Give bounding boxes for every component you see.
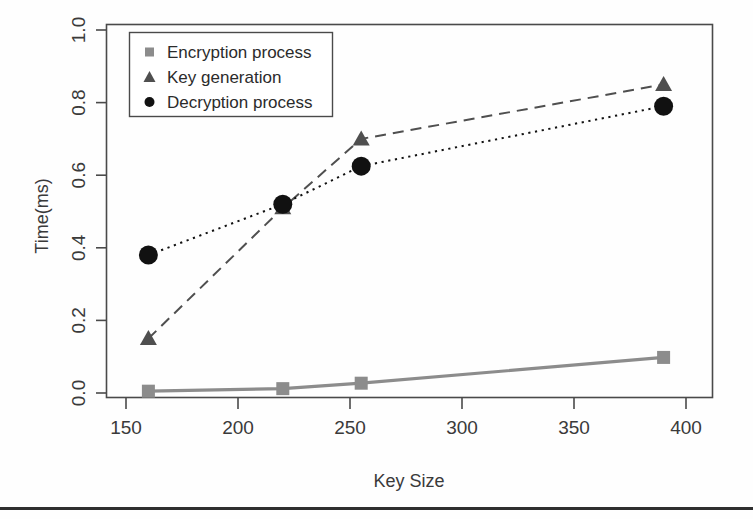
circle-marker — [273, 195, 292, 214]
x-tick-label: 150 — [110, 417, 142, 438]
chart-figure: 0.00.20.40.60.81.0 150200250300350400 Ke… — [0, 0, 753, 519]
chart-legend: Encryption processKey generationDecrypti… — [130, 33, 333, 117]
circle-marker — [352, 157, 371, 176]
page-bottom-rule — [0, 507, 753, 510]
y-tick-label: 0.2 — [68, 307, 89, 333]
y-tick-label: 0.4 — [68, 234, 89, 261]
circle-marker — [139, 246, 158, 265]
series-3 — [139, 97, 673, 265]
x-tick-label: 350 — [558, 417, 590, 438]
triangle-marker — [655, 76, 672, 91]
y-tick-label: 0.8 — [68, 89, 89, 115]
x-tick-label: 200 — [222, 417, 254, 438]
series-1 — [142, 351, 670, 398]
series-line — [148, 357, 663, 391]
square-marker — [657, 351, 670, 364]
legend-label: Decryption process — [167, 93, 313, 112]
legend-item-1: Encryption process — [145, 43, 312, 62]
x-tick-label: 250 — [334, 417, 366, 438]
square-marker — [145, 48, 154, 57]
square-marker — [142, 385, 155, 398]
x-tick-label: 300 — [446, 417, 478, 438]
line-chart-svg: 0.00.20.40.60.81.0 150200250300350400 Ke… — [0, 0, 753, 519]
series-line — [148, 106, 663, 255]
y-axis-ticks — [96, 30, 106, 393]
y-axis-title: Time(ms) — [32, 178, 52, 253]
x-axis-ticks — [126, 398, 686, 410]
legend-item-3: Decryption process — [145, 93, 313, 112]
circle-marker — [145, 97, 155, 107]
circle-marker — [654, 97, 673, 116]
y-tick-label: 1.0 — [68, 17, 89, 43]
y-tick-label: 0.0 — [68, 380, 89, 406]
data-series-layer — [139, 76, 673, 398]
legend-label: Encryption process — [167, 43, 312, 62]
square-marker — [355, 377, 368, 390]
x-axis-title: Key Size — [373, 471, 444, 491]
legend-label: Key generation — [167, 68, 281, 87]
x-axis-tick-labels: 150200250300350400 — [110, 417, 702, 438]
square-marker — [276, 382, 289, 395]
series-line — [148, 84, 663, 338]
y-axis-tick-labels: 0.00.20.40.60.81.0 — [68, 17, 89, 406]
y-tick-label: 0.6 — [68, 162, 89, 188]
x-tick-label: 400 — [670, 417, 702, 438]
